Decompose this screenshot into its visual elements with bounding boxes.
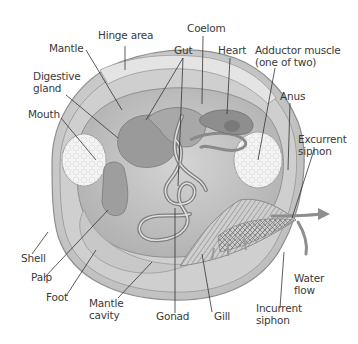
label-water-flow: Water flow: [294, 272, 324, 296]
label-anus: Anus: [280, 90, 305, 102]
label-gonad: Gonad: [156, 310, 189, 322]
label-incurrent-siphon: Incurrent siphon: [256, 302, 302, 326]
label-digestive-gland: Digestive gland: [33, 70, 81, 94]
label-coelom: Coelom: [187, 22, 226, 34]
label-mantle: Mantle: [49, 42, 83, 54]
label-mouth: Mouth: [28, 108, 60, 120]
label-gill: Gill: [214, 310, 230, 322]
label-heart: Heart: [218, 44, 246, 56]
label-mantle-cavity: Mantle cavity: [89, 297, 123, 321]
excurrent-arrowhead: [318, 208, 330, 220]
label-palp: Palp: [31, 271, 52, 283]
label-adductor-muscle: Adductor muscle (one of two): [255, 44, 340, 68]
label-shell: Shell: [21, 252, 46, 264]
label-excurrent-siphon: Excurrent siphon: [298, 133, 347, 157]
label-gut: Gut: [174, 44, 192, 56]
label-hinge-area: Hinge area: [98, 29, 153, 41]
clam-anatomy-diagram: Hinge area Mantle Digestive gland Mouth …: [0, 0, 358, 344]
palp-shape: [102, 162, 128, 216]
label-foot: Foot: [46, 291, 68, 303]
